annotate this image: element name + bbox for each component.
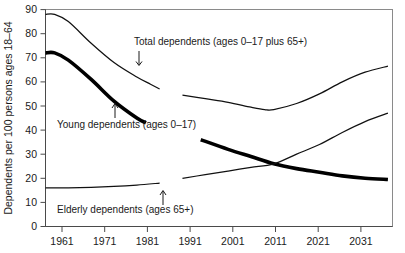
x-tick-label-2001: 2001 — [221, 235, 245, 247]
annotation-total-label: Total dependents (ages 0–17 plus 65+) — [134, 36, 307, 47]
x-tick-label-1991: 1991 — [178, 235, 202, 247]
y-axis-title: Dependents per 100 persons ages 18–64 — [2, 21, 14, 214]
y-tick-label-50: 50 — [25, 100, 37, 112]
y-tick-label-60: 60 — [25, 75, 37, 87]
y-tick-label-70: 70 — [25, 51, 37, 63]
annotation-young-label: Young dependents (ages 0–17) — [57, 119, 196, 130]
y-tick-label-20: 20 — [25, 172, 37, 184]
annotation-elderly-label: Elderly dependents (ages 65+) — [57, 204, 193, 215]
dependency-ratio-line-chart: 0 10 20 30 40 50 60 70 80 90 1961 1971 1… — [0, 0, 405, 253]
y-tick-label-80: 80 — [25, 27, 37, 39]
y-tick-label-10: 10 — [25, 196, 37, 208]
y-tick-label-0: 0 — [31, 220, 37, 232]
y-tick-label-40: 40 — [25, 124, 37, 136]
y-tick-label-90: 90 — [25, 3, 37, 15]
x-tick-label-1971: 1971 — [93, 235, 117, 247]
x-tick-label-1961: 1961 — [50, 235, 74, 247]
x-tick-label-2021: 2021 — [307, 235, 331, 247]
x-tick-label-2031: 2031 — [349, 235, 373, 247]
y-tick-label-30: 30 — [25, 148, 37, 160]
chart-container: 0 10 20 30 40 50 60 70 80 90 1961 1971 1… — [0, 0, 405, 253]
x-tick-label-2011: 2011 — [264, 235, 287, 247]
x-tick-label-1981: 1981 — [136, 235, 160, 247]
